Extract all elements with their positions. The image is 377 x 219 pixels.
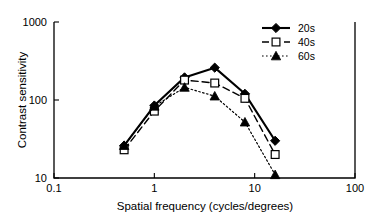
legend-label-40s: 40s bbox=[298, 36, 315, 48]
contrast-sensitivity-chart: 0.1110100 100010010 20s40s60s Spatial fr… bbox=[0, 0, 377, 219]
y-axis-title: Contrast sensitivity bbox=[16, 52, 28, 149]
chart-legend: 20s40s60s bbox=[262, 22, 315, 62]
legend-item-40s: 40s bbox=[262, 36, 315, 48]
series-20s bbox=[120, 63, 280, 150]
data-point-40s-3 bbox=[211, 79, 219, 87]
series-60s bbox=[119, 83, 279, 179]
x-axis-title: Spatial frequency (cycles/degrees) bbox=[117, 200, 294, 212]
series-line-60s bbox=[124, 87, 275, 174]
y-tick-label: 1000 bbox=[23, 16, 47, 28]
series-40s bbox=[120, 76, 279, 158]
x-tick-label: 0.1 bbox=[46, 182, 61, 194]
data-point-40s-4 bbox=[241, 94, 249, 102]
data-point-60s-5 bbox=[270, 170, 279, 179]
data-point-40s-5 bbox=[271, 151, 279, 159]
legend-label-60s: 60s bbox=[298, 50, 315, 62]
x-tick-label: 1 bbox=[151, 182, 157, 194]
legend-item-20s: 20s bbox=[262, 22, 315, 34]
x-tick-label: 100 bbox=[346, 182, 364, 194]
data-series bbox=[119, 63, 279, 179]
legend-marker-40s bbox=[272, 38, 280, 46]
legend-marker-20s bbox=[271, 23, 280, 32]
chart-canvas: 0.1110100 100010010 20s40s60s Spatial fr… bbox=[0, 0, 377, 219]
x-tick-labels: 0.1110100 bbox=[46, 182, 364, 194]
legend-label-20s: 20s bbox=[298, 22, 315, 34]
x-tick-label: 10 bbox=[249, 182, 261, 194]
legend-item-60s: 60s bbox=[262, 50, 315, 62]
y-tick-label: 10 bbox=[35, 172, 47, 184]
y-tick-label: 100 bbox=[29, 94, 47, 106]
series-line-20s bbox=[124, 68, 275, 146]
